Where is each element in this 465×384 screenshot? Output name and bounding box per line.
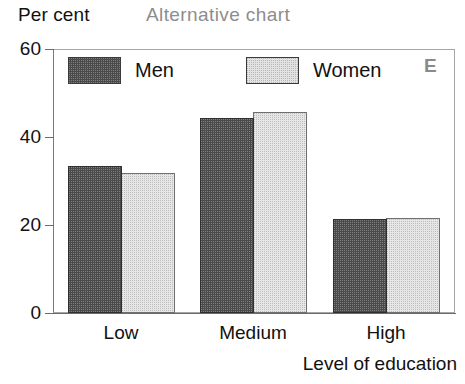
x-axis-line (53, 313, 456, 314)
x-axis-tick-label: Low (104, 322, 139, 344)
bar-men-high (333, 219, 387, 313)
y-axis-tick (45, 313, 54, 314)
bar-men-medium (200, 118, 254, 313)
x-axis-tick-label: Medium (219, 322, 287, 344)
bar-women-low (121, 173, 175, 313)
y-axis-title: Per cent (18, 4, 90, 26)
chart-container: Per cent Alternative chart 0204060 Men W… (0, 0, 465, 384)
bar-women-high (386, 218, 440, 313)
x-axis-tick-label: High (366, 322, 405, 344)
bar-men-low (68, 166, 122, 313)
y-axis-tick-label: 20 (20, 214, 41, 236)
corner-marker-label: E (424, 55, 437, 77)
legend: Men Women (68, 57, 381, 84)
legend-label-men: Men (135, 59, 174, 82)
y-axis-tick-label: 40 (20, 126, 41, 148)
legend-swatch-men (68, 57, 121, 84)
bar-women-medium (253, 112, 307, 313)
y-axis-tick-label: 60 (20, 38, 41, 60)
legend-label-women: Women (313, 59, 382, 82)
legend-swatch-women (246, 57, 299, 84)
x-axis-title: Level of education (303, 353, 457, 375)
chart-title: Alternative chart (146, 4, 290, 26)
bars-layer (53, 49, 456, 313)
legend-item-women[interactable]: Women (246, 57, 382, 84)
y-axis-tick-label: 0 (30, 302, 41, 324)
legend-item-men[interactable]: Men (68, 57, 174, 84)
